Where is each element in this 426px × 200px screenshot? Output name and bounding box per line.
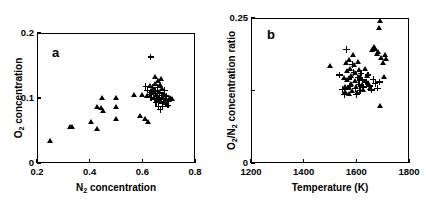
data-point-plus: [376, 79, 382, 85]
data-point-triangle: [69, 124, 75, 129]
x-tick-label-a: 0.2: [30, 167, 43, 177]
panel-a: a 0.20.40.60.800.10.2 N2 concentration O…: [0, 0, 213, 200]
y-axis-title-a-prefix: O: [13, 131, 24, 139]
panel-label-b: b: [267, 28, 275, 41]
y-axis-title-a-sub: 2: [17, 127, 26, 131]
x-tick-b: [408, 159, 409, 163]
data-point-plus: [358, 70, 364, 76]
data-point-triangle: [327, 63, 333, 68]
data-point-triangle: [383, 56, 389, 61]
data-point-triangle: [145, 119, 151, 124]
y-axis-title-b: O2/N2 concentration ratio: [227, 18, 237, 163]
data-point-plus: [163, 93, 169, 99]
x-tick-b: [356, 159, 357, 163]
data-point-plus: [345, 76, 351, 82]
y-tick-b: [251, 162, 255, 163]
x-tick-label-a: 0.4: [83, 167, 96, 177]
x-tick-a: [89, 159, 90, 163]
data-point-triangle: [47, 138, 53, 143]
data-point-triangle: [377, 103, 383, 108]
data-point-plus: [336, 72, 342, 78]
panel-b: b 120014001600180000.25 Temperature (K) …: [213, 0, 426, 200]
y-tick-a: [37, 32, 41, 33]
data-point-plus: [343, 46, 349, 52]
data-point-triangle: [375, 49, 381, 54]
data-point-triangle: [376, 25, 382, 30]
data-point-plus: [349, 61, 355, 67]
data-point-plus: [148, 54, 154, 60]
data-point-triangle: [355, 59, 361, 64]
data-point-triangle: [99, 95, 105, 100]
y-tick-b: [251, 90, 255, 91]
x-tick-a: [142, 159, 143, 163]
data-point-triangle: [88, 119, 94, 124]
x-axis-title-a-sub: 2: [83, 186, 87, 195]
data-point-triangle: [158, 76, 164, 81]
y-axis-title-a-suffix: concentration: [13, 58, 24, 127]
x-tick-b: [303, 159, 304, 163]
x-tick-label-b: 1400: [293, 167, 314, 177]
data-point-triangle: [169, 96, 175, 101]
y-axis-title-b-mid: /N: [226, 128, 237, 138]
x-axis-title-b-text: Temperature (K): [292, 182, 369, 193]
y-axis-title-b-suffix: concentration ratio: [226, 31, 237, 124]
x-tick-a: [194, 159, 195, 163]
data-point-plus: [374, 85, 380, 91]
data-point-triangle: [377, 18, 383, 23]
y-tick-a: [37, 162, 41, 163]
data-point-triangle: [113, 95, 119, 100]
panel-label-a: a: [52, 46, 59, 59]
y-axis-title-b-sub: 2: [230, 138, 239, 142]
data-point-plus: [165, 102, 171, 108]
x-axis-title-a-suffix: concentration: [87, 182, 156, 193]
data-point-triangle: [113, 116, 119, 121]
data-point-triangle: [113, 104, 119, 109]
y-axis-title-a: O2 concentration: [14, 33, 24, 163]
x-tick-label-b: 1200: [240, 167, 261, 177]
x-axis-title-b: Temperature (K): [292, 183, 369, 193]
y-axis-title-b-sub2: 2: [230, 124, 239, 128]
y-tick-a: [37, 97, 41, 98]
data-point-triangle: [100, 108, 106, 113]
data-point-triangle: [94, 126, 100, 131]
data-point-triangle: [350, 52, 356, 57]
x-tick-label-a: 0.6: [136, 167, 149, 177]
x-tick-label-b: 1800: [398, 167, 419, 177]
y-axis-title-b-prefix: O: [226, 142, 237, 150]
x-axis-title-a: N2 concentration: [76, 183, 156, 193]
x-tick-label-b: 1600: [346, 167, 367, 177]
x-tick-label-a: 0.8: [188, 167, 201, 177]
figure-two-panel-scatter: a 0.20.40.60.800.10.2 N2 concentration O…: [0, 0, 426, 200]
y-tick-b: [251, 17, 255, 18]
data-point-triangle: [131, 92, 137, 97]
data-point-plus: [341, 91, 347, 97]
